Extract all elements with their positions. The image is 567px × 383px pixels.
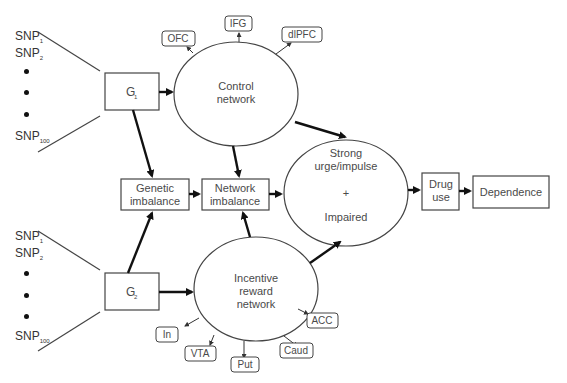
svg-text:IFG: IFG [230,18,247,29]
snp-2-top: SNP2 [15,47,43,64]
region-ofc: OFC [162,31,195,46]
region-caud: Caud [280,343,313,358]
region-in: In [156,327,178,342]
incentive-reward-network-node: Incentive reward network [194,237,318,341]
svg-text:Strong: Strong [330,147,362,159]
arrow-g1-genetic [133,110,152,176]
control-network-node: Control network [174,42,298,146]
ellipsis-dot [24,69,29,74]
region-put: Put [231,357,259,372]
urge-impaired-node: Strong urge/impulse + Impaired [284,140,408,246]
ellipsis-dot [24,112,29,117]
snp-100-bottom: SNP100 [15,330,50,347]
svg-text:Dependence: Dependence [480,186,542,198]
svg-text:ACC: ACC [311,315,332,326]
svg-text:VTA: VTA [191,348,210,359]
svg-text:Drug: Drug [429,178,453,190]
svg-text:Network: Network [215,182,256,194]
snp-1-top: SNP1 [15,30,43,47]
arrow-g2-genetic [128,213,152,273]
svg-text:imbalance: imbalance [130,195,180,207]
svg-text:dlPFC: dlPFC [288,29,316,40]
svg-text:+: + [343,187,349,199]
region-dlpfc: dlPFC [282,27,322,42]
network-imbalance-node: Network imbalance [202,179,269,210]
arrow-control-network-imbalance [233,146,239,176]
svg-text:use: use [432,191,450,203]
dependence-node: Dependence [473,176,549,208]
region-ifg: IFG [225,16,252,31]
snp-100-top: SNP100 [15,130,50,147]
drug-use-node: Drug use [422,173,459,210]
g1-node: G 1 [105,73,159,110]
region-acc: ACC [307,313,338,328]
snp-1-bottom: SNP1 [15,230,43,247]
svg-text:OFC: OFC [167,33,188,44]
svg-text:Caud: Caud [284,345,308,356]
svg-text:reward: reward [239,285,273,297]
snp-fan-line [38,231,100,270]
ellipsis-dot [24,293,29,298]
snp-fan-line [38,32,100,71]
svg-text:In: In [163,329,171,340]
snp-2-bottom: SNP2 [15,247,43,264]
svg-text:Put: Put [237,359,252,370]
genetic-imbalance-node: Genetic imbalance [121,179,189,210]
svg-text:imbalance: imbalance [210,195,260,207]
svg-text:Impaired: Impaired [325,211,368,223]
ellipsis-dot [24,271,29,276]
arrow-incentive-network-imbalance [243,213,250,237]
svg-text:Incentive: Incentive [234,272,278,284]
g2-node: G 2 [105,273,159,310]
svg-text:network: network [237,298,276,310]
svg-text:urge/impulse: urge/impulse [315,160,378,172]
svg-text:Control: Control [218,80,253,92]
ellipsis-dot [24,314,29,319]
arrow-incentive-urge [310,242,340,263]
svg-text:network: network [217,93,256,105]
region-vta: VTA [185,346,216,361]
ellipsis-dot [24,90,29,95]
arrow-control-urge [295,122,345,137]
diagram-canvas: G 1 G 2 Control network Incentive reward… [0,0,567,383]
svg-text:Genetic: Genetic [136,182,174,194]
